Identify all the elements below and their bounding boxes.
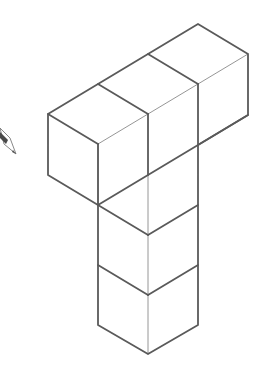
isometric-cube-diagram [0, 0, 273, 371]
pencil-icon [0, 128, 16, 154]
